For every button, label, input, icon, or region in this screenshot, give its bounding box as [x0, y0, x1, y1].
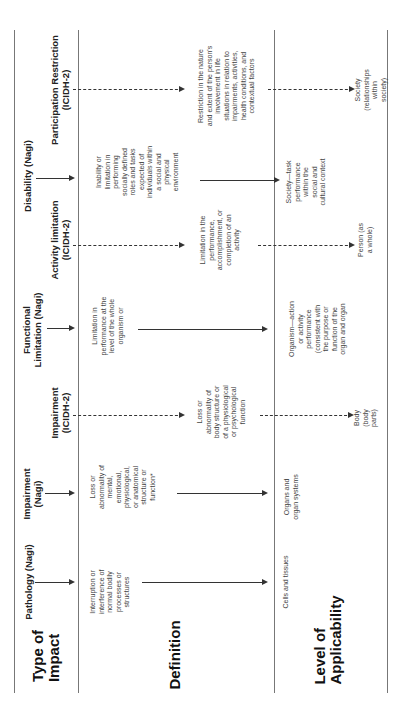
- definition-impairment-icidh2: Loss or abnormality of body structure or…: [196, 385, 247, 439]
- header-impairment-nagi: Impairment (Nagi): [21, 468, 43, 519]
- divider-definition-level: [274, 30, 275, 693]
- header-activity-limitation-icidh2: Activity limitation (ICIDH-2): [49, 200, 71, 279]
- header-functional-limitation-nagi: Functional Limitation (Nagi): [21, 293, 43, 368]
- header-participation-restriction-icidh2: Participation Restriction (ICIDH-2): [49, 35, 71, 145]
- header-pathology-nagi: Pathology (Nagi): [23, 544, 34, 619]
- arrow-pathology-header-to-definition: [35, 582, 73, 583]
- arrow-pathology-definition-to-level: [142, 582, 266, 583]
- level-pathology-nagi: Cells and tissues: [282, 556, 291, 609]
- arrow-activity-limitation-definition-to-level: [258, 245, 353, 246]
- header-disability-nagi: Disability (Nagi): [22, 140, 33, 212]
- arrow-impairment-nagi-definition-to-level: [177, 493, 266, 494]
- definition-functional-limitation-nagi: Limitation in performance at the level o…: [91, 297, 125, 356]
- definition-impairment-nagi: Loss or abnormality of mental, emotional…: [89, 465, 157, 509]
- level-activity-limitation-icidh2: Person (as a whole): [357, 223, 374, 257]
- level-participation-restriction-icidh2: Society (relationships within society): [354, 69, 388, 111]
- row-label-level-of-applicability: Level of Applicability: [312, 595, 344, 684]
- divider-top: [14, 30, 15, 693]
- level-disability-nagi: Society—task performance within the soci…: [285, 158, 328, 205]
- arrow-participation-restriction-definition-to-level: [268, 89, 353, 90]
- divider-header-definition: [78, 30, 79, 693]
- level-impairment-nagi: Organs and organ systems: [283, 474, 300, 520]
- arrow-impairment-nagi-header-to-definition: [45, 493, 73, 494]
- level-impairment-icidh2: Body (body parts): [353, 401, 379, 435]
- definition-activity-limitation-icidh2: Limitation in the performance, accomplis…: [199, 210, 242, 271]
- header-impairment-icidh2: Impairment (ICIDH-2): [49, 387, 71, 438]
- arrow-impairment-icidh2-header-to-definition: [73, 415, 183, 416]
- definition-participation-restriction-icidh2: Restriction in the nature and extent of …: [197, 46, 257, 126]
- arrow-activity-limitation-header-to-definition: [73, 245, 183, 246]
- arrow-impairment-icidh2-definition-to-level: [260, 415, 352, 416]
- arrow-disability-header-to-definition: [36, 178, 73, 179]
- arrow-functional-limitation-definition-to-level: [138, 329, 266, 330]
- arrow-disability-definition-to-level: [200, 180, 278, 181]
- definition-disability-nagi: Inability or limitation in performing so…: [95, 146, 180, 199]
- row-label-type-of-impact: Type of Impact: [30, 630, 62, 682]
- arrow-functional-limitation-header-to-definition: [47, 328, 73, 329]
- row-label-definition: Definition: [167, 620, 183, 689]
- divider-bottom: [387, 30, 388, 693]
- definition-pathology-nagi: Interruption or interference of normal b…: [89, 570, 132, 615]
- level-functional-limitation-nagi: Organism—action or activity performance …: [288, 301, 348, 357]
- arrow-participation-restriction-header-to-definition: [73, 89, 183, 90]
